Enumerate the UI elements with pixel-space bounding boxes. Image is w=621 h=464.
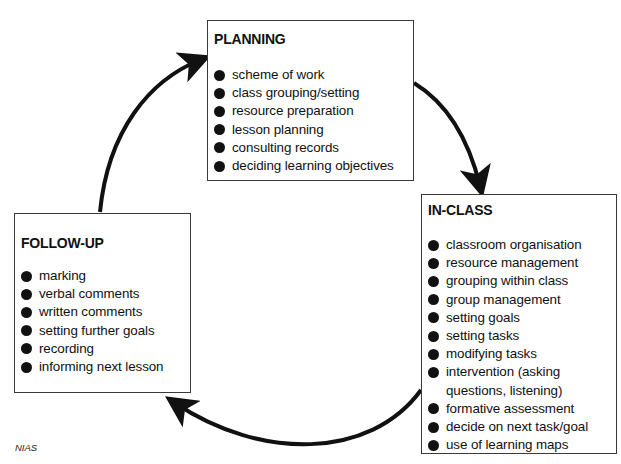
list-item: formative assessment xyxy=(428,400,616,418)
list-item: deciding learning objectives xyxy=(214,157,413,175)
bullet-icon xyxy=(428,294,439,305)
list-item: resource preparation xyxy=(214,102,413,120)
stage-title-follow-up: FOLLOW-UP xyxy=(21,235,190,251)
list-item: setting further goals xyxy=(21,322,190,340)
bullet-icon xyxy=(428,258,439,269)
bullet-icon xyxy=(428,349,439,360)
bullet-icon xyxy=(21,362,32,373)
list-item: setting goals xyxy=(428,309,616,327)
bullet-icon xyxy=(428,240,439,251)
source-credit: NIAS xyxy=(15,442,37,453)
list-item: modifying tasks xyxy=(428,345,616,363)
bullet-icon xyxy=(214,124,225,135)
bullet-icon xyxy=(428,276,439,287)
bullet-icon xyxy=(214,142,225,153)
list-item: decide on next task/goal xyxy=(428,418,616,436)
arrow-inclass-to-followup xyxy=(175,390,421,444)
bullet-icon xyxy=(428,312,439,323)
list-item: lesson planning xyxy=(214,121,413,139)
list-item: recording xyxy=(21,340,190,358)
bullet-icon xyxy=(214,70,225,81)
stage-title-planning: PLANNING xyxy=(214,31,413,47)
list-item: classroom organisation xyxy=(428,236,616,254)
list-item: resource management xyxy=(428,254,616,272)
bullet-icon xyxy=(428,403,439,414)
stage-box-planning: PLANNING scheme of work class grouping/s… xyxy=(207,20,414,181)
list-item: use of learning maps xyxy=(428,436,616,454)
bullet-icon xyxy=(428,440,439,451)
bullet-icon xyxy=(428,331,439,342)
bullet-icon xyxy=(21,307,32,318)
stage-title-in-class: IN-CLASS xyxy=(428,202,616,218)
bullet-icon xyxy=(428,422,439,433)
bullet-icon xyxy=(214,161,225,172)
stage-list-follow-up: marking verbal comments written comments… xyxy=(21,267,190,376)
bullet-icon xyxy=(21,289,32,300)
list-item: grouping within class xyxy=(428,272,616,290)
stage-box-follow-up: FOLLOW-UP marking verbal comments writte… xyxy=(14,213,191,393)
bullet-icon xyxy=(21,343,32,354)
list-item: verbal comments xyxy=(21,285,190,303)
bullet-icon xyxy=(428,367,439,378)
list-item: group management xyxy=(428,291,616,309)
bullet-icon xyxy=(21,271,32,282)
list-item: written comments xyxy=(21,303,190,321)
bullet-icon xyxy=(214,106,225,117)
list-item: informing next lesson xyxy=(21,358,190,376)
list-item: marking xyxy=(21,267,190,285)
stage-list-planning: scheme of work class grouping/setting re… xyxy=(214,66,413,175)
bullet-icon xyxy=(21,325,32,336)
bullet-icon xyxy=(214,88,225,99)
stage-box-in-class: IN-CLASS classroom organisation resource… xyxy=(421,194,617,454)
stage-list-in-class: classroom organisation resource manageme… xyxy=(428,236,616,454)
list-item: consulting records xyxy=(214,139,413,157)
arrow-followup-to-planning xyxy=(100,60,200,212)
list-item: scheme of work xyxy=(214,66,413,84)
list-item: setting tasks xyxy=(428,327,616,345)
list-item: class grouping/setting xyxy=(214,84,413,102)
list-item: intervention (asking questions, listenin… xyxy=(428,363,606,399)
arrow-planning-to-inclass xyxy=(414,83,480,186)
